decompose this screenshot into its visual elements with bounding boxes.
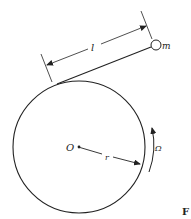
radius-line-1 [80, 148, 102, 155]
string-line [57, 47, 151, 84]
center-dot [78, 146, 81, 149]
diagram-canvas: O r m l Ω F [0, 0, 191, 219]
center-label: O [66, 142, 74, 153]
mass-label: m [162, 41, 171, 51]
angular-velocity-arc [149, 128, 154, 172]
radius-label: r [105, 153, 110, 162]
extension-line-right [141, 11, 152, 39]
mass-circle [151, 40, 161, 50]
radius-line-2 [113, 157, 140, 164]
length-dim-line-2 [101, 26, 146, 44]
angular-velocity-label: Ω [154, 144, 162, 153]
figure-tag: F [182, 206, 189, 217]
length-label: l [91, 42, 94, 53]
length-dim-line-1 [47, 49, 88, 65]
extension-line-left [41, 54, 52, 82]
